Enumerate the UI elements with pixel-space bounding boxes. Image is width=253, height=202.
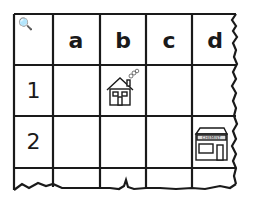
column-header-d: d (192, 30, 238, 52)
row-header-2: 2 (14, 131, 53, 153)
magnifier-icon: 🔍 (18, 17, 33, 31)
house-icon (104, 68, 140, 112)
column-header-c: c (146, 30, 192, 52)
column-header-b: b (100, 30, 146, 52)
column-header-a: a (53, 30, 99, 52)
grid-map: 🔍 a b c d 1 2 CHEMIST (0, 0, 253, 202)
shop-sign: CHEMIST (202, 135, 221, 140)
shop-icon: CHEMIST (194, 126, 234, 164)
row-header-1: 1 (14, 80, 53, 102)
